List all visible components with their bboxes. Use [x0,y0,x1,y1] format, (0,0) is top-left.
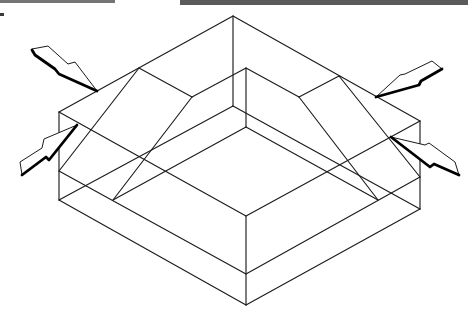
scan-bar-right [180,0,468,5]
compression-arrow-top-right [376,61,442,97]
compression-arrow-top-left [32,46,97,91]
scan-mark [0,13,4,16]
outer-front-left-edge [59,112,246,216]
outer-front-right-edge [246,121,420,216]
lightning-arrow-icon [32,46,97,91]
layer-front-right-edge [246,177,420,274]
base-front-left-edge [59,200,246,305]
inner-top-left-edge [192,68,246,97]
compression-arrow-bottom-right [391,137,459,175]
scan-artifacts [0,0,468,16]
ridge-left-fault [59,68,139,171]
outer-top-right-edge [233,16,420,121]
layer-front-left-edge [59,171,246,274]
inner-front-right-slope [246,127,378,200]
compression-arrow-bottom-left [20,125,77,175]
outer-top-left-edge [59,16,233,112]
isometric-block-diagram [0,0,475,323]
inner-top-right-edge [246,68,299,97]
lightning-arrow-icon [20,125,77,175]
block-diagram-figure [0,0,475,323]
ridge-right-to-inner [299,76,339,97]
ridge-right-fault [339,76,420,177]
block-edges [59,16,420,305]
scan-bar-left [0,0,115,3]
base-back-right-edge [233,106,420,209]
lightning-arrow-icon [376,61,442,97]
ridge-left-to-inner [139,68,192,97]
base-front-right-edge [246,209,420,305]
compression-arrows [20,46,459,175]
inner-front-left-slope [113,127,246,200]
